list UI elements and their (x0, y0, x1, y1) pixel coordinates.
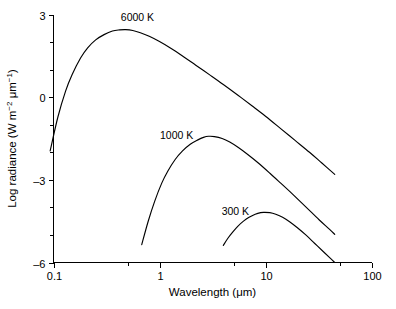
axis-ticks-group (49, 16, 373, 268)
x-tick-label: 1 (157, 270, 163, 282)
y-tick-label: –3 (33, 175, 45, 187)
curve-label-1000: 1000 K (160, 129, 193, 141)
radiance-curve-6000 (50, 30, 335, 175)
x-tick-label: 0.1 (47, 270, 62, 282)
x-tick-label: 10 (260, 270, 272, 282)
y-tick-label: 3 (39, 10, 45, 22)
curves-group (50, 30, 335, 263)
curve-labels-group: 6000 K1000 K300 K (121, 11, 249, 217)
x-tick-label: 100 (363, 270, 381, 282)
y-tick-label: 0 (39, 92, 45, 104)
curve-label-300: 300 K (222, 205, 249, 217)
blackbody-radiance-chart: 30–3–60.1110100 6000 K1000 K300 K Wavele… (0, 0, 396, 309)
chart-canvas: 30–3–60.1110100 6000 K1000 K300 K Wavele… (0, 0, 396, 309)
y-axis-title: Log radiance (W m−2 μm−1) (5, 69, 18, 208)
curve-label-6000: 6000 K (121, 11, 154, 23)
x-axis-title: Wavelength (μm) (169, 286, 257, 298)
radiance-curve-300 (223, 212, 334, 262)
radiance-curve-1000 (142, 136, 335, 244)
axis-lines-group (54, 15, 372, 263)
y-tick-label: –6 (33, 258, 45, 270)
